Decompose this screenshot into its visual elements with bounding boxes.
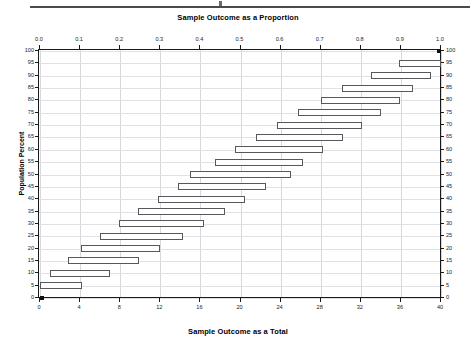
- tick-left: [35, 272, 38, 273]
- grid-line-horizontal: [39, 137, 440, 138]
- tick-right: [441, 248, 444, 249]
- confidence-interval-bar: [190, 171, 290, 178]
- tick-label-bottom: 28: [317, 304, 323, 310]
- tick-bottom: [119, 298, 120, 302]
- tick-left: [35, 285, 38, 286]
- tick-right: [441, 186, 444, 187]
- tick-left: [35, 235, 38, 236]
- tick-label-left: 30: [16, 220, 34, 226]
- tick-left: [35, 87, 38, 88]
- tick-top: [79, 45, 80, 49]
- tick-label-top: 0.3: [155, 36, 163, 42]
- tick-top: [240, 45, 241, 49]
- tick-right: [441, 161, 444, 162]
- tick-label-right: 45: [446, 183, 464, 189]
- chart-page: Sample Outcome as a Proportion Populatio…: [0, 0, 476, 346]
- tick-left: [35, 136, 38, 137]
- tick-label-bottom: 0: [37, 304, 40, 310]
- tick-label-top: 0.5: [236, 36, 244, 42]
- tick-left: [35, 149, 38, 150]
- grid-line-horizontal: [39, 224, 440, 225]
- tick-right: [441, 99, 444, 100]
- tick-label-bottom: 20: [236, 304, 242, 310]
- tick-right: [441, 211, 444, 212]
- confidence-interval-bar: [100, 233, 183, 240]
- tick-bottom: [400, 298, 401, 302]
- tick-label-left: 95: [16, 59, 34, 65]
- tick-bottom: [280, 298, 281, 302]
- tick-label-right: 10: [446, 269, 464, 275]
- tick-right: [441, 297, 444, 298]
- tick-label-left: 90: [16, 72, 34, 78]
- tick-right: [441, 75, 444, 76]
- confidence-interval-bar: [298, 109, 381, 116]
- tick-right: [441, 198, 444, 199]
- tick-left: [35, 62, 38, 63]
- tick-right: [441, 50, 444, 51]
- tick-left: [35, 50, 38, 51]
- confidence-interval-bar: [81, 245, 160, 252]
- grid-line-horizontal: [39, 212, 440, 213]
- tick-label-right: 20: [446, 245, 464, 251]
- tick-label-right: 75: [446, 109, 464, 115]
- tick-top: [400, 45, 401, 49]
- confidence-interval-bar: [215, 159, 302, 166]
- tick-label-bottom: 32: [357, 304, 363, 310]
- tick-label-right: 15: [446, 257, 464, 263]
- grid-line-horizontal: [39, 125, 440, 126]
- tick-top: [39, 45, 40, 49]
- confidence-interval-bar: [40, 296, 44, 300]
- tick-label-right: 30: [446, 220, 464, 226]
- tick-right: [441, 112, 444, 113]
- tick-label-left: 10: [16, 269, 34, 275]
- tick-right: [441, 136, 444, 137]
- tick-bottom: [159, 298, 160, 302]
- tick-left: [35, 124, 38, 125]
- confidence-interval-bar: [399, 60, 441, 67]
- tick-left: [35, 211, 38, 212]
- tick-label-right: 55: [446, 158, 464, 164]
- tick-label-top: 0.7: [316, 36, 324, 42]
- confidence-interval-bar: [256, 134, 343, 141]
- tick-bottom: [240, 298, 241, 302]
- tick-label-right: 85: [446, 84, 464, 90]
- tick-label-top: 1.0: [436, 36, 444, 42]
- tick-label-bottom: 8: [118, 304, 121, 310]
- plot-area: [38, 49, 441, 298]
- x-axis-title: Sample Outcome as a Total: [0, 327, 476, 336]
- tick-label-right: 65: [446, 133, 464, 139]
- tick-label-right: 95: [446, 59, 464, 65]
- tick-right: [441, 223, 444, 224]
- tick-left: [35, 260, 38, 261]
- tick-label-bottom: 16: [196, 304, 202, 310]
- tick-label-left: 25: [16, 232, 34, 238]
- tick-top: [280, 45, 281, 49]
- tick-label-left: 85: [16, 84, 34, 90]
- tick-right: [441, 62, 444, 63]
- confidence-interval-bar: [342, 85, 413, 92]
- tick-right: [441, 285, 444, 286]
- tick-label-top: 0.6: [276, 36, 284, 42]
- page-top-tick-icon: [219, 1, 222, 6]
- tick-label-right: 80: [446, 96, 464, 102]
- confidence-interval-bar: [321, 97, 400, 104]
- tick-top: [360, 45, 361, 49]
- tick-label-left: 45: [16, 183, 34, 189]
- tick-right: [441, 235, 444, 236]
- tick-top: [119, 45, 120, 49]
- tick-top: [199, 45, 200, 49]
- tick-right: [441, 272, 444, 273]
- tick-label-left: 60: [16, 146, 34, 152]
- confidence-interval-bar: [40, 282, 82, 289]
- tick-right: [441, 124, 444, 125]
- tick-label-top: 0.0: [35, 36, 43, 42]
- grid-line-vertical: [40, 50, 41, 297]
- tick-label-right: 35: [446, 208, 464, 214]
- tick-right: [441, 174, 444, 175]
- tick-label-top: 0.8: [356, 36, 364, 42]
- tick-label-left: 20: [16, 245, 34, 251]
- confidence-interval-bar: [68, 257, 139, 264]
- tick-label-left: 100: [16, 47, 34, 53]
- tick-bottom: [360, 298, 361, 302]
- tick-label-right: 50: [446, 171, 464, 177]
